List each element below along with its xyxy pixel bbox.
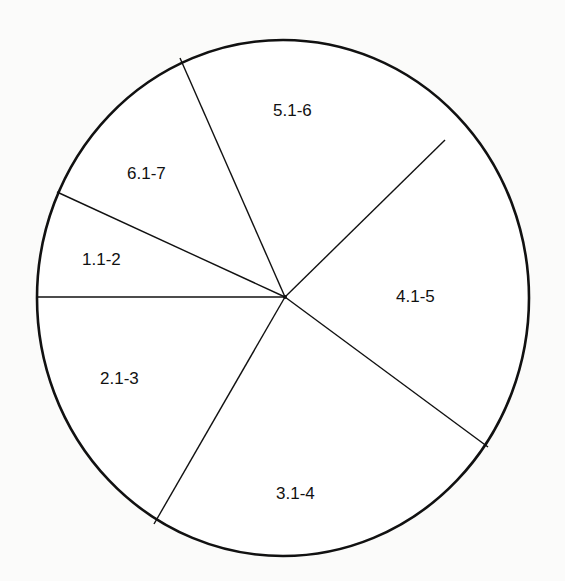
slice-label-1-2: 1.1-2 — [82, 250, 121, 269]
slice-label-6-7: 6.1-7 — [127, 164, 166, 183]
slice-label-5-6: 5.1-6 — [273, 101, 312, 120]
slice-label-2-3: 2.1-3 — [100, 369, 139, 388]
slice-label-3-4: 3.1-4 — [276, 484, 315, 503]
slice-label-4-5: 4.1-5 — [396, 287, 435, 306]
pie-chart: 1.1-2 2.1-3 3.1-4 4.1-5 5.1-6 6.1-7 — [0, 0, 565, 581]
pie-center — [283, 295, 287, 299]
